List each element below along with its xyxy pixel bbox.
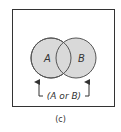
right-arrow-icon <box>85 82 89 96</box>
left-arrow-icon <box>39 82 43 96</box>
figure-caption: (c) <box>0 115 121 124</box>
union-label: (A or B) <box>47 91 81 101</box>
venn-diagram: A B (A or B) <box>0 0 121 132</box>
set-b <box>56 38 96 78</box>
circle-b <box>56 38 96 78</box>
set-a-label: A <box>43 53 51 64</box>
set-b-label: B <box>78 53 85 64</box>
